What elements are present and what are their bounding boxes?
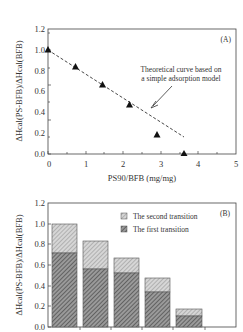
panel-a: 0.0 0.2 0.4 0.6 0.8 1.0 1.2 0 1 2 3 4 5 … <box>14 24 238 183</box>
legend-swatch-first <box>121 226 127 232</box>
panel-b-label: (B) <box>220 209 231 218</box>
triangle-marker <box>181 150 188 156</box>
y-tick: 0.6 <box>34 260 45 270</box>
x-tick: 2 <box>121 159 125 169</box>
panel-b-y-tick-labels: 0.0 0.2 0.4 0.6 0.8 1.0 1.2 <box>34 198 45 332</box>
legend: The second transition The first transiti… <box>121 212 198 234</box>
y-tick: 0.2 <box>34 128 45 138</box>
panel-a-x-ticks <box>48 151 217 154</box>
y-tick: 1.2 <box>34 198 45 208</box>
legend-label-first: The first transition <box>133 225 189 234</box>
data-points <box>45 46 188 156</box>
triangle-marker <box>45 46 52 53</box>
panel-b-y-ticks <box>48 224 51 327</box>
y-tick: 0.4 <box>34 107 45 117</box>
y-tick: 0.2 <box>34 301 45 311</box>
panel-b-y-axis-title: ΔHcal(PS-BFB)/ΔHcal(BFB) <box>14 214 24 315</box>
panel-a-x-axis-title: PS90/BFB (mg/mg) <box>108 173 176 183</box>
legend-label-second: The second transition <box>133 212 198 221</box>
panel-a-y-tick-labels: 0.0 0.2 0.4 0.6 0.8 1.0 1.2 <box>34 24 45 159</box>
annotation-line1: Theoretical curve based on <box>140 65 221 74</box>
x-tick: 5 <box>234 159 238 169</box>
triangle-marker <box>99 81 106 88</box>
panel-b: 0.0 0.2 0.4 0.6 0.8 1.0 1.2 ΔHcal(PS-BFB… <box>14 198 236 332</box>
bars <box>52 224 202 327</box>
y-tick: 1.0 <box>34 219 45 229</box>
x-tick: 3 <box>159 159 163 169</box>
triangle-marker <box>72 63 79 70</box>
bar-first-2 <box>83 269 108 327</box>
x-tick: 1 <box>84 159 88 169</box>
bar-second-3 <box>114 258 139 273</box>
y-tick: 0.8 <box>34 239 45 249</box>
bar-first-3 <box>114 273 139 327</box>
theoretical-curve <box>48 50 184 137</box>
y-tick: 0.8 <box>34 66 45 76</box>
legend-swatch-second <box>121 213 127 219</box>
panel-a-label: (A) <box>221 35 232 44</box>
x-tick: 0 <box>47 159 51 169</box>
y-tick: 0.4 <box>34 281 45 291</box>
figure: 0.0 0.2 0.4 0.6 0.8 1.0 1.2 0 1 2 3 4 5 … <box>0 0 243 332</box>
bar-second-1 <box>52 224 77 253</box>
y-tick: 0.0 <box>34 149 45 159</box>
panel-a-y-axis-title: ΔHcal(PS-BFB)/ΔHcal(BFB) <box>14 40 24 141</box>
bar-second-4 <box>145 278 170 292</box>
annotation-arrow <box>151 86 172 108</box>
bar-second-5 <box>176 309 202 316</box>
y-tick: 1.0 <box>34 45 45 55</box>
panel-a-x-tick-labels: 0 1 2 3 4 5 <box>47 159 238 169</box>
bar-second-2 <box>83 241 108 269</box>
triangle-marker <box>154 131 161 138</box>
panel-a-frame <box>48 29 236 154</box>
triangle-marker <box>126 101 133 108</box>
annotation-line2: a simple adsorption model <box>141 74 220 83</box>
bar-first-5 <box>176 316 202 327</box>
bar-first-4 <box>145 292 170 327</box>
y-tick: 0.0 <box>34 322 45 332</box>
y-tick: 0.6 <box>34 86 45 96</box>
x-tick: 4 <box>196 159 201 169</box>
panel-b-x-ticks <box>80 327 205 330</box>
bar-first-1 <box>52 253 77 327</box>
y-tick: 1.2 <box>34 24 45 34</box>
